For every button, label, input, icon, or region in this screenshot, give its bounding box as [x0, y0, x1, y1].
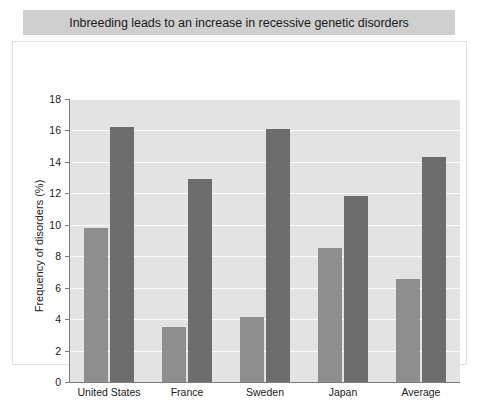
- y-tick-mark: [65, 351, 69, 352]
- bar: [318, 248, 342, 382]
- y-axis-label: Frequency of disorders (%): [33, 136, 45, 356]
- y-axis-line: [69, 99, 70, 383]
- y-tick-mark: [65, 382, 69, 383]
- x-tick-label: Sweden: [246, 386, 284, 398]
- plot-area: [70, 99, 460, 382]
- bar: [110, 127, 134, 382]
- x-tick-label: Japan: [329, 386, 358, 398]
- x-tick-label: United States: [77, 386, 140, 398]
- y-tick-mark: [65, 256, 69, 257]
- y-tick-mark: [65, 225, 69, 226]
- y-tick-label: 8: [55, 250, 61, 262]
- chart-panel: 024681012141618 United StatesFranceSwede…: [12, 41, 467, 365]
- y-tick-mark: [65, 288, 69, 289]
- chart-title-banner: Inbreeding leads to an increase in reces…: [23, 10, 455, 35]
- y-tick-label: 2: [55, 345, 61, 357]
- y-tick-label: 4: [55, 313, 61, 325]
- y-tick-mark: [65, 193, 69, 194]
- gridline: [70, 99, 460, 100]
- bar: [84, 228, 108, 382]
- y-tick-label: 16: [49, 124, 61, 136]
- bar: [162, 327, 186, 382]
- x-axis-line: [69, 382, 460, 383]
- y-tick-label: 10: [49, 219, 61, 231]
- bar: [344, 196, 368, 382]
- y-tick-mark: [65, 162, 69, 163]
- y-tick-mark: [65, 130, 69, 131]
- y-tick-mark: [65, 99, 69, 100]
- x-tick-label: Average: [402, 386, 441, 398]
- y-tick-label: 14: [49, 156, 61, 168]
- bar: [240, 317, 264, 382]
- bar: [422, 157, 446, 382]
- page-title: Inbreeding leads to an increase in reces…: [69, 16, 408, 30]
- y-tick-label: 18: [49, 93, 61, 105]
- bar: [266, 129, 290, 382]
- x-tick-label: France: [171, 386, 204, 398]
- y-tick-mark: [65, 319, 69, 320]
- bar: [396, 279, 420, 382]
- bar: [188, 179, 212, 382]
- y-tick-label: 0: [55, 376, 61, 388]
- y-tick-label: 6: [55, 282, 61, 294]
- y-tick-label: 12: [49, 187, 61, 199]
